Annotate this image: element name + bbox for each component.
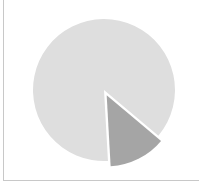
- pie-chart: [0, 0, 200, 186]
